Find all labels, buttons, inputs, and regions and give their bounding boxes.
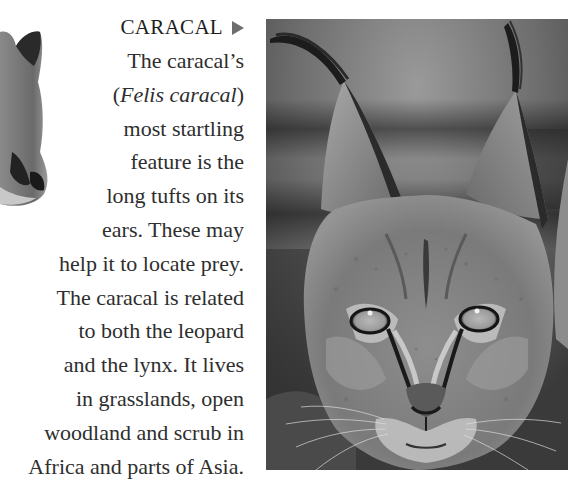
- body-line: long tufts on its: [0, 179, 244, 213]
- heading-text: CARACAL: [121, 15, 223, 39]
- body-line: in grasslands, open: [0, 382, 244, 416]
- caracal-photo: [266, 19, 568, 470]
- body-line: and the lynx. It lives: [0, 348, 244, 382]
- body-line: woodland and scrub in: [0, 416, 244, 450]
- scientific-name: Felis caracal: [120, 82, 237, 107]
- body-line: The caracal is related: [0, 281, 244, 315]
- body-line: help it to locate prey.: [0, 247, 244, 281]
- body-line: The caracal’s: [0, 44, 244, 78]
- body-line: feature is the: [0, 145, 244, 179]
- right-triangle-pointer-icon: [232, 21, 244, 35]
- article-heading: CARACAL: [0, 10, 244, 44]
- body-line: to both the leopard: [0, 314, 244, 348]
- body-line: (Felis caracal): [0, 78, 244, 112]
- body-line: ears. These may: [0, 213, 244, 247]
- body-line: most startling: [0, 112, 244, 146]
- body-line: Africa and parts of Asia.: [0, 450, 244, 484]
- article-text: CARACAL The caracal’s (Felis caracal) mo…: [0, 10, 244, 483]
